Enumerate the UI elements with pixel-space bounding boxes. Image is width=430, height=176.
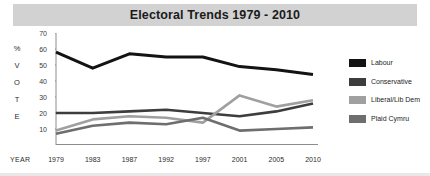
x-axis-title: YEAR bbox=[10, 156, 30, 164]
legend-item-label: Plaid Cymru bbox=[371, 112, 409, 125]
y-axis-title-letter: T bbox=[12, 96, 22, 104]
plot-area bbox=[55, 33, 318, 145]
legend-item-label: Liberal/Lib Dem bbox=[371, 93, 420, 106]
y-tick-label: 60 bbox=[29, 46, 47, 53]
bottom-edge-strip bbox=[0, 173, 430, 176]
y-axis-title-letter: V bbox=[12, 62, 22, 70]
legend-color-swatch bbox=[349, 59, 366, 67]
series-line-labour bbox=[56, 52, 313, 74]
chart-title-banner: Electoral Trends 1979 - 2010 bbox=[13, 4, 417, 26]
legend-item[interactable]: Plaid Cymru bbox=[349, 112, 429, 131]
electoral-trends-chart: Electoral Trends 1979 - 2010 %VOTE 70605… bbox=[0, 0, 430, 176]
y-axis-title-letter: E bbox=[12, 113, 22, 121]
chart-lines-svg bbox=[55, 33, 318, 145]
legend-item-label: Conservative bbox=[371, 75, 412, 88]
x-tick-label: 2001 bbox=[223, 156, 257, 164]
y-tick-label: 20 bbox=[29, 110, 47, 117]
chart-legend: LabourConservativeLiberal/Lib DemPlaid C… bbox=[349, 56, 429, 130]
x-tick-label: 1992 bbox=[149, 156, 183, 164]
legend-item[interactable]: Labour bbox=[349, 56, 429, 75]
y-tick-label: 70 bbox=[29, 30, 47, 37]
x-tick-label: 1979 bbox=[39, 156, 73, 164]
data-series-lines bbox=[56, 52, 313, 134]
y-axis-title-letter: O bbox=[12, 79, 22, 87]
legend-color-swatch bbox=[349, 78, 366, 86]
legend-item-label: Labour bbox=[371, 56, 393, 69]
legend-color-swatch bbox=[349, 96, 366, 104]
legend-item[interactable]: Conservative bbox=[349, 75, 429, 94]
x-tick-label: 1987 bbox=[112, 156, 146, 164]
page-title: Electoral Trends 1979 - 2010 bbox=[13, 4, 417, 26]
legend-color-swatch bbox=[349, 115, 366, 123]
y-tick-label: 40 bbox=[29, 78, 47, 85]
y-tick-label: 30 bbox=[29, 94, 47, 101]
x-tick-label: 2010 bbox=[296, 156, 330, 164]
y-tick-label: 10 bbox=[29, 126, 47, 133]
x-tick-label: 1997 bbox=[186, 156, 220, 164]
y-tick-label: 50 bbox=[29, 62, 47, 69]
y-axis-title-letter: % bbox=[12, 45, 22, 53]
legend-item[interactable]: Liberal/Lib Dem bbox=[349, 93, 429, 112]
x-tick-label: 1983 bbox=[76, 156, 110, 164]
x-tick-label: 2005 bbox=[259, 156, 293, 164]
